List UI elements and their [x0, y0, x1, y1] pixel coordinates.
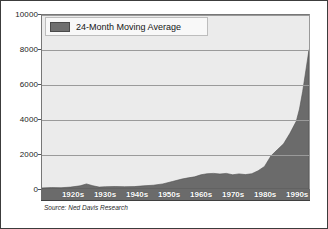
- y-tick-label: 6000: [0, 80, 38, 89]
- x-tick-label: 1930s: [89, 190, 121, 200]
- x-tick-label: 1950s: [153, 190, 185, 200]
- gridline: [42, 50, 309, 51]
- x-tick-label: 1960s: [185, 190, 217, 200]
- y-tick-mark: [38, 154, 41, 155]
- y-tick-label: 0: [0, 185, 38, 194]
- gridline: [42, 15, 309, 16]
- y-tick-label: 2000: [0, 150, 38, 159]
- x-axis: 1920s1930s1940s1950s1960s1970s1980s1990s: [41, 189, 310, 201]
- y-axis: 0200040006000800010000: [0, 0, 38, 229]
- legend-label: 24-Month Moving Average: [76, 22, 181, 32]
- y-tick-label: 4000: [0, 115, 38, 124]
- x-tick-label: 1920s: [57, 190, 89, 200]
- source-note: Source: Ned Davis Research: [44, 204, 128, 212]
- gridline: [42, 85, 309, 86]
- y-tick-mark: [38, 84, 41, 85]
- y-tick-mark: [38, 119, 41, 120]
- x-tick-label: 1990s: [281, 190, 310, 200]
- y-tick-label: 8000: [0, 45, 38, 54]
- legend-swatch-icon: [50, 22, 70, 32]
- chart-figure: 0200040006000800010000 1920s1930s1940s19…: [0, 0, 328, 229]
- x-tick-label: 1940s: [121, 190, 153, 200]
- y-tick-mark: [38, 49, 41, 50]
- x-tick-label: 1980s: [249, 190, 281, 200]
- plot-area: [41, 14, 310, 189]
- y-tick-mark: [38, 14, 41, 15]
- x-tick-label: 1970s: [217, 190, 249, 200]
- y-tick-label: 10000: [0, 10, 38, 19]
- area-series-24-month-moving-average: [42, 15, 309, 189]
- chart-legend: 24-Month Moving Average: [45, 17, 208, 36]
- gridline: [42, 155, 309, 156]
- gridline: [42, 120, 309, 121]
